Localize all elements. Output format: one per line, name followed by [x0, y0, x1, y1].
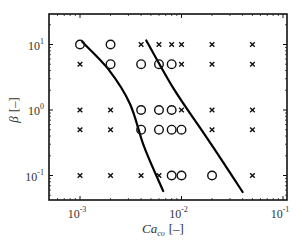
cross-marker	[250, 42, 255, 47]
circle-marker	[76, 40, 85, 49]
cross-marker	[250, 173, 255, 178]
cross-marker	[210, 108, 215, 113]
y-tick-labels: 10-1100101	[25, 37, 44, 184]
circle-marker	[208, 171, 217, 180]
y-axis-label-symbol: β	[6, 116, 21, 124]
circle-marker	[167, 125, 176, 134]
x-tick-labels: 10-310-210-1	[68, 205, 290, 221]
cross-marker	[210, 62, 215, 67]
circle-marker	[177, 125, 186, 134]
x-tick-label: 10-3	[68, 205, 87, 221]
circle-marker	[167, 106, 176, 115]
cross-marker	[139, 173, 144, 178]
circle-marker	[106, 60, 115, 69]
circle-marker	[167, 60, 176, 69]
cross-marker	[78, 127, 83, 132]
cross-marker	[250, 108, 255, 113]
cross-marker	[210, 127, 215, 132]
y-tick-label: 101	[28, 37, 44, 53]
y-tick-label: 10-1	[25, 168, 44, 184]
cross-marker	[179, 42, 184, 47]
cross-marker	[179, 108, 184, 113]
cross-marker	[139, 42, 144, 47]
x-tick-label: 10-1	[271, 205, 290, 221]
circle-marker	[137, 106, 146, 115]
y-axis-label-unit: [–]	[6, 97, 21, 112]
circle-marker	[155, 125, 164, 134]
x-axis-label-main: Ca	[142, 221, 158, 236]
circle-marker	[177, 171, 186, 180]
cross-marker	[157, 42, 162, 47]
cross-marker	[108, 173, 113, 178]
cross-marker	[78, 173, 83, 178]
cross-marker	[108, 108, 113, 113]
circle-marker	[167, 171, 176, 180]
cross-marker	[78, 62, 83, 67]
cross-marker	[78, 108, 83, 113]
x-axis-label: Caco[–]	[142, 221, 184, 238]
circle-marker	[137, 60, 146, 69]
x-axis-label-unit: [–]	[169, 221, 184, 236]
x-axis-label-sub: co	[157, 229, 165, 238]
cross-marker	[250, 62, 255, 67]
cross-marker	[210, 42, 215, 47]
cross-marker	[169, 42, 174, 47]
y-axis-label: β[–]	[6, 97, 21, 124]
chart: 10-310-210-1 10-1100101 Caco[–] β[–]	[0, 0, 302, 244]
x-tick-label: 10-2	[169, 205, 188, 221]
y-tick-label: 100	[28, 102, 44, 118]
circle-marker	[106, 40, 115, 49]
circle-marker	[155, 106, 164, 115]
cross-marker	[179, 62, 184, 67]
cross-marker	[108, 127, 113, 132]
boundary-right-curve	[146, 41, 242, 193]
boundary-left-curve	[82, 42, 163, 191]
cross-marker	[250, 127, 255, 132]
